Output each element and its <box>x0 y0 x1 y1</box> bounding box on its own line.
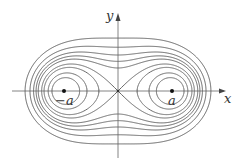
origin-point <box>117 90 120 93</box>
left-focus-label: −a <box>55 94 74 107</box>
plot-canvas <box>0 0 242 164</box>
right-focus-label: a <box>168 94 176 107</box>
x-axis-label: x <box>224 92 231 105</box>
y-axis-arrow-icon <box>116 13 121 21</box>
cassini-ovals-diagram: y x −a a <box>0 0 242 164</box>
y-axis-label: y <box>106 9 113 22</box>
